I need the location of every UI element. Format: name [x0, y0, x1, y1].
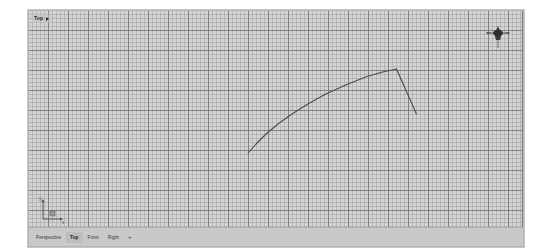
viewport-label[interactable]: Top — [32, 14, 51, 23]
axis-label-y: y — [39, 196, 41, 201]
application-window: Top y x Perspective — [0, 0, 549, 250]
chevron-right-icon[interactable] — [46, 17, 49, 21]
view-tab-top[interactable]: Top — [66, 232, 82, 243]
viewport-panel[interactable]: Top y x Perspective — [28, 10, 524, 247]
profile-curve — [248, 69, 396, 153]
viewport-label-text: Top — [34, 15, 43, 22]
view-tab-bar[interactable]: Perspective Top Front Right + — [29, 227, 523, 246]
view-tab-front[interactable]: Front — [84, 232, 103, 243]
view-cube-gizmo-icon[interactable] — [485, 25, 511, 49]
view-tab-right[interactable]: Right — [104, 232, 123, 243]
view-tab-perspective[interactable]: Perspective — [32, 232, 65, 243]
tail-segment — [397, 69, 417, 114]
axis-label-x: x — [62, 220, 64, 225]
viewport-grid-canvas[interactable]: Top y x — [29, 11, 523, 229]
add-view-tab-button[interactable]: + — [125, 233, 135, 241]
geometry-layer — [29, 11, 523, 229]
